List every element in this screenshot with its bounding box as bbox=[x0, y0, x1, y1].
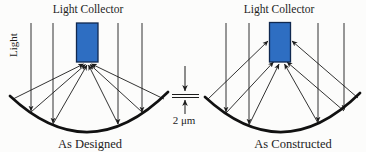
reflected-ray-icon bbox=[207, 41, 268, 100]
reflected-ray-icon bbox=[226, 62, 274, 113]
as-constructed-caption: As Constructed bbox=[254, 137, 332, 151]
reflected-ray-icon bbox=[287, 62, 344, 111]
constructed-mirror-arc bbox=[205, 93, 360, 132]
reflected-ray-icon bbox=[90, 65, 142, 113]
left-light-collector-label: Light Collector bbox=[53, 3, 124, 16]
right-light-collector-label: Light Collector bbox=[244, 3, 315, 16]
as-designed-panel: Light Collector Light As Designed bbox=[7, 3, 168, 151]
reflected-ray-icon bbox=[285, 64, 319, 123]
left-light-label: Light bbox=[7, 33, 19, 57]
reflected-ray-icon bbox=[249, 64, 279, 125]
dimension-indicator: 2 μm bbox=[172, 66, 199, 126]
reflected-ray-icon bbox=[31, 65, 86, 113]
reflected-ray-icon bbox=[53, 65, 87, 124]
dimension-value-label: 2 μm bbox=[173, 114, 196, 126]
reflected-ray-icon bbox=[13, 64, 84, 99]
diagram-canvas: Light Collector Light As Designed bbox=[0, 0, 366, 152]
as-designed-caption: As Designed bbox=[58, 137, 123, 151]
as-constructed-panel: Light Collector As Constructed bbox=[205, 3, 360, 151]
left-light-collector-rect bbox=[77, 23, 99, 62]
designed-mirror-arc bbox=[10, 92, 168, 132]
right-light-collector-rect bbox=[270, 23, 291, 63]
reflected-ray-icon bbox=[89, 65, 119, 124]
optical-figure: Light Collector Light As Designed bbox=[0, 0, 366, 152]
reflected-ray-icon bbox=[292, 41, 358, 98]
